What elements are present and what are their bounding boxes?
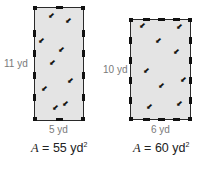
sprout-icon: ⬋ [139, 22, 146, 30]
fence-post-icon [82, 94, 85, 101]
fence-post-icon [189, 37, 192, 44]
sprout-icon: ⬋ [176, 100, 183, 108]
sprout-icon: ⬋ [49, 59, 56, 67]
fence-post-icon [129, 37, 132, 44]
fence-post-icon [33, 50, 36, 57]
left-fenced-plot [34, 7, 84, 121]
fence-post-icon [189, 97, 192, 104]
fence-post-icon [33, 6, 37, 10]
fence-post-icon [173, 18, 180, 21]
sprout-icon: ⬋ [173, 48, 180, 56]
fence-post-icon [33, 72, 36, 79]
area-formula: A = 60 yd2 [133, 141, 189, 156]
fence-post-icon [158, 118, 165, 121]
fence-post-icon [82, 72, 85, 79]
fence-post-icon [189, 57, 192, 64]
fence-post-icon [143, 118, 150, 121]
sprout-icon: ⬋ [48, 12, 55, 20]
sprout-icon: ⬋ [58, 46, 65, 54]
fence-post-icon [129, 18, 133, 22]
sprout-icon: ⬋ [62, 100, 69, 108]
width-label: 5 yd [49, 124, 68, 135]
fence-post-icon [33, 94, 36, 101]
fence-post-icon [56, 6, 63, 9]
fence-post-icon [56, 118, 63, 121]
sprout-icon: ⬋ [146, 103, 153, 111]
area-formula: A = 55 yd2 [31, 141, 87, 156]
fence-post-icon [82, 30, 85, 37]
fence-post-icon [188, 18, 192, 22]
sprout-icon: ⬋ [155, 37, 162, 45]
fence-post-icon [129, 77, 132, 84]
fence-post-icon [129, 117, 133, 121]
fence-post-icon [81, 117, 85, 121]
fence-post-icon [173, 118, 180, 121]
fence-post-icon [188, 117, 192, 121]
height-label: 11 yd [4, 58, 28, 69]
sprout-icon: ⬋ [158, 82, 165, 90]
sprout-icon: ⬋ [38, 37, 45, 45]
sprout-icon: ⬋ [176, 23, 183, 31]
sprout-icon: ⬋ [143, 67, 150, 75]
height-label: 10 yd [103, 64, 127, 75]
sprout-icon: ⬋ [41, 85, 48, 93]
fence-post-icon [33, 117, 37, 121]
fence-post-icon [81, 6, 85, 10]
fence-post-icon [158, 18, 165, 21]
sprout-icon: ⬋ [67, 77, 74, 85]
fence-post-icon [33, 30, 36, 37]
fence-post-icon [129, 97, 132, 104]
fence-post-icon [129, 57, 132, 64]
fence-post-icon [189, 77, 192, 84]
sprout-icon: ⬋ [52, 104, 59, 112]
sprout-icon: ⬋ [180, 76, 187, 84]
fence-post-icon [82, 50, 85, 57]
width-label: 6 yd [151, 124, 170, 135]
sprout-icon: ⬋ [65, 17, 72, 25]
